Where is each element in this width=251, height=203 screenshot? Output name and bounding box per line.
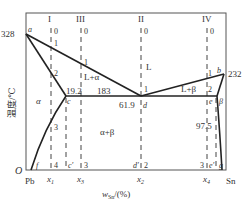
solvus-c-f: [31, 96, 66, 170]
point-e: e: [209, 97, 213, 106]
comp-c: 19.2: [66, 86, 82, 96]
point-g: g: [219, 161, 223, 170]
region-alpha: α: [36, 96, 41, 106]
point-c: c: [67, 97, 71, 106]
point-d: d: [143, 101, 148, 110]
region-l-alpha: L+α: [84, 72, 100, 82]
alloy-I-mark-2: 2: [54, 69, 58, 78]
solidus-a-c: [26, 34, 66, 96]
comp-d: 61.9: [119, 100, 135, 110]
comp-e: 97.5: [196, 121, 212, 131]
x3-label: x3: [76, 174, 84, 185]
alloy-III-label: III: [76, 14, 85, 24]
x1-label: x1: [46, 174, 54, 185]
solvus-e-g: [217, 96, 222, 170]
alloy-I-label: I: [48, 14, 51, 24]
eutectic-temp: 183: [97, 86, 111, 96]
origin-label: O: [15, 165, 22, 176]
point-f: f: [36, 161, 40, 170]
alloy-lines: [51, 28, 216, 170]
alloy-III-mark-0: 0: [84, 27, 88, 36]
region-l-beta: L+β: [181, 84, 197, 94]
alloy-I-mark-0: 0: [54, 27, 58, 36]
alloy-II-label: II: [138, 14, 144, 24]
alloy-IV-label: IV: [202, 14, 212, 24]
x2-label: x2: [136, 174, 144, 185]
x-axis-title: wSn/(%): [102, 189, 130, 200]
pb-melt-temp: 328: [1, 29, 15, 39]
point-e-prime: e′: [209, 161, 215, 170]
region-alpha-beta: α+β: [100, 127, 115, 137]
alloy-I-mark-1: 1: [54, 39, 58, 48]
point-d-prime: d′: [133, 161, 139, 170]
alloy-III-mark-1: 1: [84, 58, 88, 67]
alloy-IV-mark-3: 3: [200, 161, 204, 170]
solidus-b-e: [217, 74, 224, 96]
y-axis-title: 温度/℃: [6, 87, 17, 118]
sn-melt-temp: 232: [228, 69, 242, 79]
alloy-IV-mark-0: 0: [210, 27, 214, 36]
region-liquid: L: [146, 62, 152, 72]
alloy-I-mark-3: 3: [54, 123, 58, 132]
region-beta: β: [218, 97, 223, 106]
alloy-III-mark-3: 3: [84, 161, 88, 170]
alloy-IV-mark-1: 1: [208, 69, 212, 78]
alloy-II-mark-1: 1: [144, 85, 148, 94]
point-c-prime: c′: [68, 161, 74, 170]
sn-label: Sn: [226, 176, 236, 186]
point-a: a: [28, 25, 32, 34]
pb-label: Pb: [25, 176, 35, 186]
point-b: b: [217, 66, 221, 75]
x4-label: x4: [202, 174, 210, 185]
alloy-II-mark-0: 0: [144, 27, 148, 36]
alloy-II-mark-2: 2: [144, 161, 148, 170]
alloy-I-mark-4: 4: [54, 161, 58, 170]
alloy-IV-mark-2: 2: [208, 85, 212, 94]
phase-diagram: I III II IV 0 1 2 3 4 0 1 3 0 1 2 0 1 2 …: [0, 0, 251, 203]
